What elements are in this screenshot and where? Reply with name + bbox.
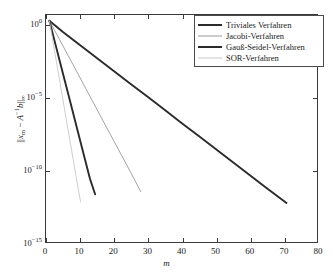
x-tick-mark [217, 238, 218, 242]
x-tick-mark [80, 238, 81, 242]
y-axis-label-b: b [15, 104, 25, 109]
x-tick-label: 70 [269, 246, 299, 257]
y-axis-label-norm-close: || [15, 100, 25, 104]
figure-semilog-iterative-solver-convergence: 01020304050607080 10010−510−1010−15 m ||… [0, 0, 333, 275]
y-axis-label-sup-inverse: −1 [13, 108, 20, 115]
y-axis-label: ||xm − A−1b||∞ [15, 5, 25, 234]
legend-item[interactable]: SOR-Verfahren [198, 52, 319, 63]
y-axis-label-x: x [15, 135, 25, 139]
legend-item-label: SOR-Verfahren [226, 53, 279, 63]
x-tick-mark [251, 238, 252, 242]
x-tick-mark [80, 15, 81, 19]
y-tick-mark [313, 171, 317, 172]
x-tick-mark [148, 238, 149, 242]
x-tick-mark [285, 238, 286, 242]
x-tick-label: 60 [235, 246, 265, 257]
legend-line-swatch [198, 20, 222, 30]
legend-line-swatch [198, 31, 222, 41]
x-tick-mark [148, 15, 149, 19]
y-tick-label: 100 [30, 19, 42, 29]
legend-item-label: Triviales Verfahren [226, 20, 291, 30]
y-tick-exponent: 0 [39, 17, 42, 24]
legend-line-swatch [198, 42, 222, 52]
legend-box: Triviales VerfahrenJacobi-VerfahrenGauß-… [194, 15, 324, 67]
legend-item-label: Gauß-Seidel-Verfahren [226, 42, 305, 52]
y-axis-label-sub-infinity: ∞ [19, 95, 26, 100]
x-tick-label: 30 [132, 246, 162, 257]
legend-item-label: Jacobi-Verfahren [226, 31, 284, 41]
legend-line-icon [198, 46, 222, 48]
y-axis-label-A: A [15, 115, 25, 121]
legend-line-swatch [198, 53, 222, 63]
series-line [49, 21, 80, 202]
series-line [49, 21, 140, 192]
legend-item[interactable]: Gauß-Seidel-Verfahren [198, 41, 319, 52]
x-tick-mark [46, 238, 47, 242]
y-tick-mark [46, 25, 50, 26]
y-tick-mark [313, 98, 317, 99]
legend-line-icon [198, 24, 222, 26]
y-axis-label-norm-open: || [15, 139, 25, 143]
x-tick-mark [46, 15, 47, 19]
x-tick-label: 20 [98, 246, 128, 257]
x-tick-mark [183, 15, 184, 19]
legend-item[interactable]: Triviales Verfahren [198, 19, 319, 30]
y-axis-label-sub-m: m [19, 130, 26, 135]
y-tick-label: 10−5 [27, 92, 42, 102]
y-tick-exponent: −10 [32, 163, 42, 170]
y-axis-label-minus: − [15, 120, 25, 130]
x-tick-label: 40 [167, 246, 197, 257]
legend-item[interactable]: Jacobi-Verfahren [198, 30, 319, 41]
y-tick-mantissa: 10 [23, 165, 32, 175]
y-tick-mantissa: 10 [27, 92, 36, 102]
series-line [49, 21, 95, 195]
y-tick-label: 10−10 [23, 165, 42, 175]
y-tick-mark [46, 98, 50, 99]
y-tick-mark [46, 171, 50, 172]
x-tick-label: 10 [64, 246, 94, 257]
x-tick-mark [183, 238, 184, 242]
x-axis-label: m [0, 258, 333, 268]
x-tick-label: 80 [303, 246, 333, 257]
legend-line-icon [198, 35, 222, 36]
y-tick-label: 10−15 [23, 238, 42, 248]
y-tick-mantissa: 10 [30, 19, 39, 29]
legend-line-icon [198, 57, 222, 58]
x-tick-mark [114, 238, 115, 242]
x-tick-label: 50 [201, 246, 231, 257]
y-tick-exponent: −5 [35, 90, 42, 97]
x-tick-mark [114, 15, 115, 19]
y-tick-mantissa: 10 [23, 238, 32, 248]
y-tick-exponent: −15 [32, 236, 42, 243]
